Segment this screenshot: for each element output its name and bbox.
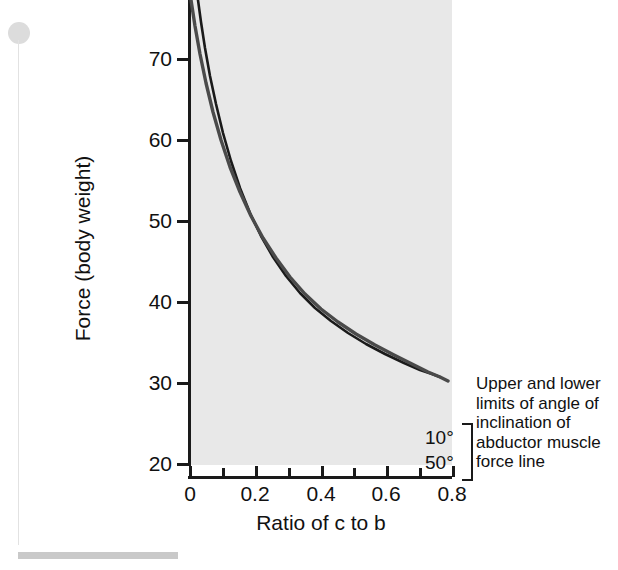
curve-label-50-degrees: 50° — [425, 453, 454, 472]
annotation-line: force line — [476, 452, 618, 472]
curve-50-degrees — [191, 0, 448, 381]
annotation-line: abductor muscle — [476, 433, 618, 453]
annotation-line: Upper and lower — [476, 374, 618, 394]
annotation-line: limits of angle of — [476, 394, 618, 414]
annotation-bracket — [462, 423, 473, 481]
annotation-text: Upper and lower limits of angle of incli… — [476, 374, 618, 472]
curve-label-10-degrees: 10° — [425, 428, 454, 447]
curve-10-degrees — [198, 0, 440, 377]
annotation-line: inclination of — [476, 413, 618, 433]
curve-layer — [0, 0, 618, 570]
chart-figure: 70 60 50 40 30 20 0 0.2 0.4 0.6 0.8 Forc… — [0, 0, 618, 570]
